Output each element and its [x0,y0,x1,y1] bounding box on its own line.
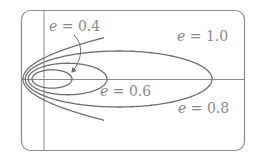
curve-label: e = 0.6 [100,83,151,99]
curve-label: e = 0.8 [178,100,229,116]
curve-label: e = 0.4 [49,18,100,34]
conic-diagram: e = 0.4e = 1.0e = 0.6e = 0.8 [0,0,254,162]
curve-label: e = 1.0 [177,28,228,44]
